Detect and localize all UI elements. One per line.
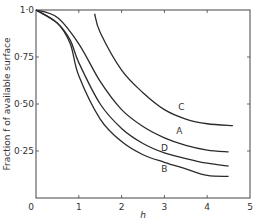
x-tick-label: 5 bbox=[247, 202, 253, 212]
curve-label-a: A bbox=[176, 126, 183, 136]
chart: 012345 1·00·750·500·25 ABCD h Fraction f… bbox=[0, 0, 253, 222]
x-axis: 012345 bbox=[28, 10, 253, 212]
x-tick-label: 1 bbox=[76, 202, 82, 212]
curve-label-d: D bbox=[161, 143, 168, 153]
curve-c bbox=[95, 14, 233, 126]
x-tick-label: 4 bbox=[204, 202, 210, 212]
x-tick-label: 0 bbox=[28, 202, 34, 212]
curve-label-b: B bbox=[161, 164, 167, 174]
x-tick-label: 2 bbox=[119, 202, 125, 212]
y-tick-label: 0·75 bbox=[14, 52, 34, 62]
x-axis-title: h bbox=[140, 210, 146, 220]
curves bbox=[36, 10, 233, 176]
curve-b bbox=[36, 10, 229, 176]
y-axis-title: Fraction f of available surface bbox=[2, 37, 12, 171]
curve-label-c: C bbox=[178, 102, 184, 112]
x-tick-label: 3 bbox=[162, 202, 168, 212]
y-axis: 1·00·750·500·25 bbox=[14, 5, 250, 156]
y-tick-label: 0·25 bbox=[14, 146, 34, 156]
y-tick-label: 0·50 bbox=[14, 99, 34, 109]
y-tick-label: 1·0 bbox=[20, 5, 35, 15]
